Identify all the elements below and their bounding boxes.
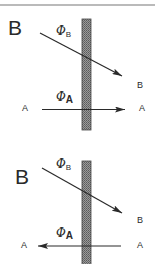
flux-b-label-bottom: ΦB [56, 158, 71, 172]
flux-b-arrow-top [40, 33, 122, 76]
flux-a-left-label-top: A [22, 104, 28, 113]
panel-bottom [38, 161, 122, 264]
phi-symbol: Φ [56, 90, 66, 104]
flux-a-subscript: A [66, 230, 73, 241]
diagram-graphics [0, 0, 155, 264]
flux-a-label-bottom: ΦA [56, 227, 73, 241]
flux-a-right-label-top: A [139, 104, 145, 113]
panel-top [40, 19, 125, 130]
flux-a-label-top: ΦA [56, 91, 73, 105]
phi-symbol: Φ [56, 24, 66, 38]
flux-b-label-top: ΦB [56, 25, 71, 39]
flux-a-right-label-bottom: A [137, 241, 143, 250]
flux-a-subscript: A [66, 94, 73, 105]
phi-symbol: Φ [56, 157, 66, 171]
phi-symbol: Φ [56, 226, 66, 240]
membrane-bottom [82, 161, 91, 264]
flux-b-subscript: B [66, 30, 71, 39]
flux-a-left-label-bottom: A [21, 241, 27, 250]
flux-b-end-label-top: B [137, 81, 143, 90]
panel-label-top: B [8, 17, 22, 38]
membrane-flux-diagram: B ΦB B ΦA A A B ΦB B ΦA A A [0, 0, 155, 264]
flux-b-end-label-bottom: B [137, 216, 143, 225]
panel-label-bottom: B [15, 166, 29, 187]
flux-b-subscript: B [66, 163, 71, 172]
membrane-top [82, 19, 91, 130]
